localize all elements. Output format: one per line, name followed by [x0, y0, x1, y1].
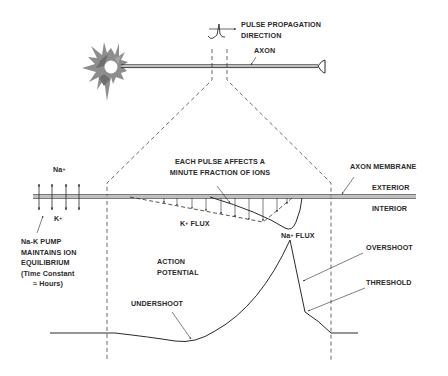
pulse-direction-label: PULSE PROPAGATION DIRECTION [241, 20, 321, 41]
axon [121, 65, 318, 68]
overshoot-label: OVERSHOOT [366, 243, 413, 254]
axon-leader [251, 57, 256, 65]
axon-membrane-label: AXON MEMBRANE [350, 162, 416, 173]
undershoot-label: UNDERSHOOT [131, 299, 183, 310]
pump-line2: MAINTAINS ION [21, 248, 76, 259]
action-potential-label: ACTION POTENTIAL [157, 257, 199, 278]
exterior-label: EXTERIOR [372, 183, 410, 194]
na-flux-curve [210, 197, 302, 229]
na-charge: + [62, 166, 65, 172]
na-flux-charge: + [290, 232, 293, 238]
na-flux-text: FLUX [296, 231, 315, 240]
action-potential-curve [50, 240, 358, 342]
na-flux-label: Na+ FLUX [281, 231, 315, 242]
undershoot-leader [172, 312, 191, 339]
pump-line5: ≈ Hours) [21, 279, 76, 290]
neuron-soma-icon [82, 42, 128, 101]
na-flux-ion: Na [281, 231, 290, 240]
pump-leader [37, 216, 43, 233]
pump-line1: Na-K PUMP [21, 237, 76, 248]
action-potential-line1: ACTION [157, 257, 199, 268]
soma-nucleus [105, 61, 118, 74]
interior-label: INTERIOR [372, 204, 407, 215]
axon-label: AXON [254, 46, 275, 57]
na-ion-text: Na [53, 165, 62, 174]
each-pulse-line1: EACH PULSE AFFECTS A [155, 157, 285, 168]
pump-line4: (Time Constant [21, 269, 76, 280]
pulse-direction-line1: PULSE PROPAGATION [241, 20, 321, 31]
na-k-pump-label: Na-K PUMP MAINTAINS ION EQUILIBRIUM (Tim… [21, 237, 76, 290]
pump-line3: EQUILIBRIUM [21, 258, 76, 269]
axon-membrane [33, 195, 416, 198]
k-flux-label: K+ FLUX [180, 219, 210, 230]
threshold-leader [308, 288, 365, 311]
k-flux-text: FLUX [190, 219, 209, 228]
pulse-direction-line2: DIRECTION [241, 31, 321, 42]
overshoot-leader [303, 253, 363, 281]
pulse-waveform-icon [208, 24, 225, 39]
axon-terminal-icon [318, 60, 325, 73]
zoom-guide-lines [107, 49, 331, 360]
axon-membrane-leader [342, 177, 354, 194]
na-ion-label: Na+ [53, 165, 65, 176]
action-potential-line2: POTENTIAL [157, 268, 199, 279]
k-charge: + [59, 215, 62, 221]
k-flux-charge: + [185, 220, 188, 226]
each-pulse-line2: MINUTE FRACTION OF IONS [155, 168, 285, 179]
each-pulse-label: EACH PULSE AFFECTS A MINUTE FRACTION OF … [155, 157, 285, 178]
k-ion-label: K+ [54, 214, 62, 225]
threshold-label: THRESHOLD [366, 278, 412, 289]
